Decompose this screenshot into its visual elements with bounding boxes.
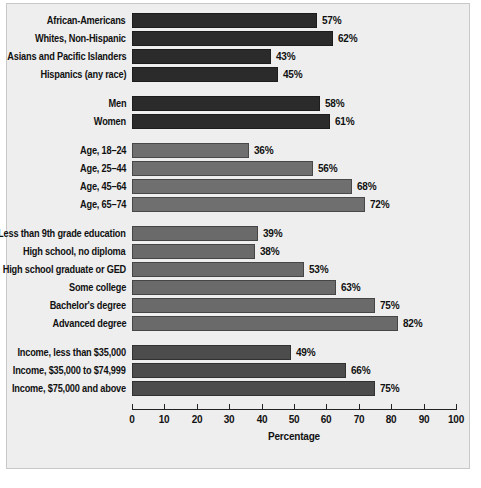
bar-category-label: Less than 9th grade education [0, 226, 126, 241]
bar-row: African-Americans57% [7, 13, 469, 28]
bar [132, 345, 291, 360]
x-axis-tick-label: 20 [182, 414, 212, 425]
bar-value-label: 75% [380, 381, 399, 396]
x-axis-tick [424, 404, 425, 409]
bar-row: Income, less than $35,00049% [7, 345, 469, 360]
bar-value-label: 72% [370, 197, 389, 212]
bar-value-label: 56% [318, 161, 337, 176]
bar-row: Income, $75,000 and above75% [7, 381, 469, 396]
bar [132, 67, 278, 82]
bar [132, 13, 317, 28]
bar-row: Some college63% [7, 280, 469, 295]
bar [132, 161, 313, 176]
bar-category-label: Age, 45–64 [80, 179, 126, 194]
x-axis-tick-label: 80 [376, 414, 406, 425]
bar-value-label: 45% [283, 67, 302, 82]
bar-category-label: Men [108, 96, 126, 111]
x-axis-tick-label: 90 [409, 414, 439, 425]
bar-value-label: 62% [338, 31, 357, 46]
bar [132, 31, 333, 46]
bar-category-label: African-Americans [47, 13, 126, 28]
bar-row: Bachelor's degree75% [7, 298, 469, 313]
bar-value-label: 43% [276, 49, 295, 64]
bar [132, 96, 320, 111]
x-axis-tick [164, 404, 165, 409]
bar-row: Age, 25–4456% [7, 161, 469, 176]
bar-category-label: Age, 18–24 [80, 143, 126, 158]
bar-category-label: Whites, Non-Hispanic [35, 31, 126, 46]
x-axis-tick-label: 30 [214, 414, 244, 425]
bar-value-label: 68% [357, 179, 376, 194]
x-axis-tick [391, 404, 392, 409]
bar-row: Age, 18–2436% [7, 143, 469, 158]
x-axis-tick [359, 404, 360, 409]
bar-category-label: Women [94, 114, 126, 129]
x-axis-tick-label: 60 [311, 414, 341, 425]
bar-category-label: High school graduate or GED [3, 262, 126, 277]
x-axis-title: Percentage [132, 431, 456, 442]
x-axis-line [132, 409, 457, 410]
bar-category-label: Age, 25–44 [80, 161, 126, 176]
x-axis-tick-label: 10 [149, 414, 179, 425]
bar-row: High school graduate or GED53% [7, 262, 469, 277]
bar-value-label: 36% [254, 143, 273, 158]
bar-value-label: 63% [341, 280, 360, 295]
bar-value-label: 58% [325, 96, 344, 111]
x-axis-tick [229, 404, 230, 409]
bar-row: Advanced degree82% [7, 316, 469, 331]
bar [132, 316, 398, 331]
bar [132, 49, 271, 64]
bar [132, 197, 365, 212]
bar [132, 143, 249, 158]
bar-value-label: 53% [309, 262, 328, 277]
bar-row: Income, $35,000 to $74,99966% [7, 363, 469, 378]
x-axis-tick-label: 0 [117, 414, 147, 425]
bar-category-label: Asians and Pacific Islanders [7, 49, 126, 64]
bar-value-label: 75% [380, 298, 399, 313]
plot-area: African-Americans57%Whites, Non-Hispanic… [7, 4, 469, 468]
x-axis-tick-label: 50 [279, 414, 309, 425]
bar-row: Hispanics (any race)45% [7, 67, 469, 82]
chart-panel: African-Americans57%Whites, Non-Hispanic… [6, 3, 470, 469]
x-axis-tick-label: 70 [344, 414, 374, 425]
bar-row: Asians and Pacific Islanders43% [7, 49, 469, 64]
bar [132, 114, 330, 129]
bar-category-label: Age, 65–74 [80, 197, 126, 212]
bar-value-label: 82% [403, 316, 422, 331]
bar-row: Whites, Non-Hispanic62% [7, 31, 469, 46]
bar-row: Women61% [7, 114, 469, 129]
x-axis-tick-label: 100 [441, 414, 471, 425]
bar-category-label: High school, no diploma [23, 244, 126, 259]
x-axis-tick [456, 404, 457, 409]
x-axis-tick [294, 404, 295, 409]
x-axis-tick [132, 404, 133, 409]
bar-category-label: Income, $75,000 and above [12, 381, 126, 396]
bar-value-label: 49% [296, 345, 315, 360]
x-axis-tick [326, 404, 327, 409]
bar-value-label: 57% [322, 13, 341, 28]
bar [132, 381, 375, 396]
bar-row: Age, 65–7472% [7, 197, 469, 212]
bar [132, 244, 255, 259]
bar-value-label: 38% [260, 244, 279, 259]
x-axis-tick [262, 404, 263, 409]
bar [132, 262, 304, 277]
bar [132, 298, 375, 313]
bar-category-label: Income, less than $35,000 [18, 345, 126, 360]
bar-row: High school, no diploma38% [7, 244, 469, 259]
bar-category-label: Bachelor's degree [50, 298, 126, 313]
bar-value-label: 39% [263, 226, 282, 241]
x-axis-tick-label: 40 [247, 414, 277, 425]
bar-row: Men58% [7, 96, 469, 111]
bar-value-label: 61% [335, 114, 354, 129]
bar [132, 280, 336, 295]
x-axis-tick [197, 404, 198, 409]
bar-row: Age, 45–6468% [7, 179, 469, 194]
bar-category-label: Hispanics (any race) [40, 67, 126, 82]
bar-value-label: 66% [351, 363, 370, 378]
bar [132, 226, 258, 241]
bar [132, 363, 346, 378]
bar-category-label: Some college [69, 280, 126, 295]
bar-category-label: Income, $35,000 to $74,999 [13, 363, 126, 378]
bar [132, 179, 352, 194]
